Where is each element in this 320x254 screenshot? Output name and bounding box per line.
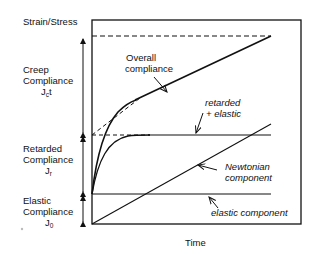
retarded-elastic-annotation: retarded + elastic [205,97,241,119]
elastic-compliance-label: Elastic Compliance J0 [23,195,73,231]
elastic-symbol: J0 [23,217,73,231]
overall-compliance-curve [92,100,136,194]
retarded-symbol: Jr [23,165,73,179]
creep-compliance-label: Creep Compliance Jct [23,64,73,100]
creep-label-line2: Compliance [23,75,73,86]
retarded-elastic-curve [92,135,150,194]
elastic-label-line1: Elastic [23,195,73,206]
overall-annotation-line2: compliance [125,63,173,74]
elastic-label-line2: Compliance [23,206,73,217]
x-axis-label: Time [185,237,206,248]
elastic-component-annotation: elastic component [211,207,288,218]
newtonian-annotation: Newtonian component [225,161,272,183]
creep-symbol: Jct [23,86,73,100]
newtonian-pointer-arrow [198,165,217,170]
retarded-elastic-pointer-arrow [196,113,203,133]
retarded-compliance-label: Retarded Compliance Jr [23,143,73,179]
newtonian-line2: component [225,172,272,183]
retarded-label-line2: Compliance [23,154,73,165]
newtonian-line1: Newtonian [225,161,272,172]
overall-extrapolation-dashed [92,98,140,135]
retarded-elastic-line1: retarded [205,97,241,108]
retarded-label-line1: Retarded [23,143,73,154]
retarded-elastic-line2: + elastic [205,108,241,119]
overall-compliance-annotation: Overall compliance [125,52,173,74]
creep-label-line1: Creep [23,64,73,75]
y-axis-label: Strain/Stress [23,16,77,27]
overall-annotation-line1: Overall [125,52,173,63]
